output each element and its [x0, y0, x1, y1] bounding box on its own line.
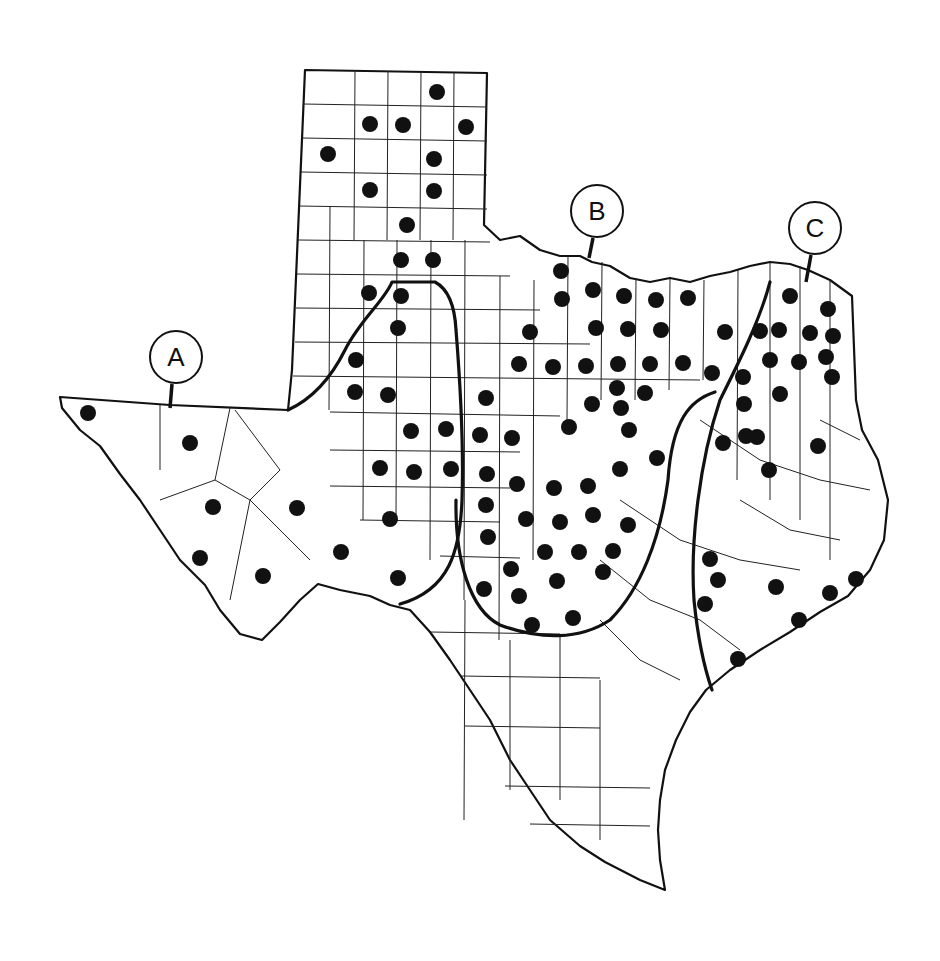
occurrence-dot: [653, 322, 669, 338]
label-leader-line: [589, 238, 593, 258]
occurrence-dot: [546, 480, 562, 496]
occurrence-dot: [749, 429, 765, 445]
occurrence-dot: [710, 572, 726, 588]
occurrence-dot: [478, 497, 494, 513]
occurrence-dot: [362, 182, 378, 198]
occurrence-dot: [320, 146, 336, 162]
occurrence-dot: [348, 352, 364, 368]
occurrence-dot: [704, 365, 720, 381]
occurrence-dot: [771, 322, 787, 338]
occurrence-dot: [429, 84, 445, 100]
occurrence-dot: [702, 551, 718, 567]
occurrence-dot: [509, 476, 525, 492]
occurrence-dot: [642, 356, 658, 372]
occurrence-dot: [637, 385, 653, 401]
occurrence-dot: [802, 325, 818, 341]
occurrence-dot: [458, 119, 474, 135]
occurrence-dot: [571, 544, 587, 560]
occurrence-dot: [561, 419, 577, 435]
occurrence-dot: [522, 324, 538, 340]
occurrence-dot: [478, 390, 494, 406]
occurrence-dot: [552, 514, 568, 530]
occurrence-dot: [403, 423, 419, 439]
occurrence-dot: [648, 292, 664, 308]
occurrence-dot: [347, 384, 363, 400]
occurrence-dot: [472, 427, 488, 443]
occurrence-dot: [205, 499, 221, 515]
occurrence-dot: [537, 544, 553, 560]
occurrence-dot: [621, 422, 637, 438]
occurrence-dot: [333, 544, 349, 560]
occurrence-dot: [824, 369, 840, 385]
occurrence-dot: [393, 288, 409, 304]
region-label-b: B: [588, 196, 605, 226]
occurrence-dot: [553, 263, 569, 279]
occurrence-dot: [578, 358, 594, 374]
occurrence-dot: [730, 651, 746, 667]
occurrence-dot: [372, 460, 388, 476]
label-leader-line: [170, 384, 172, 408]
occurrence-dot: [772, 386, 788, 402]
occurrence-dot: [612, 461, 628, 477]
occurrence-dot: [289, 500, 305, 516]
occurrence-dot: [480, 529, 496, 545]
occurrence-dot: [438, 421, 454, 437]
occurrence-dot: [518, 511, 534, 527]
occurrence-dot: [390, 320, 406, 336]
occurrence-dot: [255, 568, 271, 584]
occurrence-dot: [545, 359, 561, 375]
occurrence-dot: [395, 117, 411, 133]
occurrence-dot: [511, 588, 527, 604]
occurrence-dot: [822, 585, 838, 601]
texas-map: ABC: [0, 0, 940, 961]
occurrence-dot: [825, 328, 841, 344]
occurrence-dot: [768, 579, 784, 595]
occurrence-dot: [426, 151, 442, 167]
occurrence-dot: [524, 617, 540, 633]
occurrence-dot: [609, 380, 625, 396]
occurrence-dot: [511, 356, 527, 372]
occurrence-dot: [820, 301, 836, 317]
occurrence-dot: [697, 596, 713, 612]
occurrence-dot: [182, 435, 198, 451]
occurrence-dot: [554, 291, 570, 307]
occurrence-dot: [380, 387, 396, 403]
region-label-a: A: [167, 342, 185, 372]
occurrence-dot: [761, 462, 777, 478]
occurrence-dot: [605, 543, 621, 559]
occurrence-dot: [762, 352, 778, 368]
occurrence-dot: [675, 355, 691, 371]
occurrence-dot: [406, 464, 422, 480]
occurrence-dot: [818, 349, 834, 365]
occurrence-dot: [503, 561, 519, 577]
occurrence-dot: [588, 320, 604, 336]
occurrence-dot: [479, 466, 495, 482]
occurrence-dot: [504, 430, 520, 446]
occurrence-dot: [585, 282, 601, 298]
occurrence-dot: [649, 450, 665, 466]
occurrence-dot: [580, 478, 596, 494]
occurrence-dot: [616, 288, 632, 304]
occurrence-dot: [426, 183, 442, 199]
occurrence-dot: [752, 323, 768, 339]
occurrence-dot: [585, 507, 601, 523]
occurrence-dot: [680, 290, 696, 306]
region-label-c: C: [806, 213, 825, 243]
occurrence-dot: [565, 610, 581, 626]
occurrence-dot: [549, 573, 565, 589]
occurrence-dot: [595, 564, 611, 580]
occurrence-dot: [613, 400, 629, 416]
occurrence-dot: [791, 612, 807, 628]
occurrence-dot: [810, 438, 826, 454]
occurrence-dot: [717, 324, 733, 340]
occurrence-dot: [399, 217, 415, 233]
occurrence-dot: [361, 285, 377, 301]
occurrence-dot: [362, 116, 378, 132]
occurrence-dot: [848, 571, 864, 587]
occurrence-dot: [390, 570, 406, 586]
occurrence-dot: [791, 354, 807, 370]
occurrence-dot: [393, 252, 409, 268]
occurrence-dot: [476, 581, 492, 597]
occurrence-dot: [610, 356, 626, 372]
occurrence-dot: [584, 396, 600, 412]
